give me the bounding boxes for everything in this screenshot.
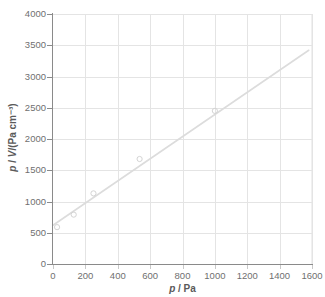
y-axis-tick-label: 500 <box>10 228 46 238</box>
data-layer <box>53 14 312 264</box>
y-axis-title-symbol-v: V <box>7 151 18 158</box>
y-axis-title: p / V/(Pa cm⁻³) <box>7 68 18 208</box>
y-axis-title-sep: / <box>7 157 18 165</box>
y-axis-tick <box>47 202 52 203</box>
x-axis-tick <box>150 265 151 269</box>
y-axis-tick <box>47 139 52 140</box>
trendline <box>53 50 309 225</box>
data-point <box>71 212 76 217</box>
y-axis-tick <box>47 45 52 46</box>
x-axis-tick <box>53 265 54 269</box>
data-point <box>54 225 59 230</box>
y-axis-tick <box>47 108 52 109</box>
data-point <box>91 191 96 196</box>
x-axis-tick-label: 1600 <box>292 270 325 281</box>
y-axis-title-units: /(Pa cm⁻³) <box>7 103 18 150</box>
x-axis-title-rest: / Pa <box>175 283 196 294</box>
x-axis-tick <box>312 265 313 269</box>
data-point <box>137 156 142 161</box>
x-axis-tick <box>215 265 216 269</box>
y-axis-tick <box>47 264 52 265</box>
gridline-vertical <box>312 14 313 264</box>
chart-title <box>0 0 325 8</box>
y-axis-tick <box>47 77 52 78</box>
chart-container: 05001000150020002500300035004000 0200400… <box>0 0 325 297</box>
y-axis-tick-label: 0 <box>10 259 46 269</box>
x-axis-tick <box>183 265 184 269</box>
y-axis-tick-label: 4000 <box>10 9 46 19</box>
y-axis-tick <box>47 14 52 15</box>
x-axis-tick <box>247 265 248 269</box>
y-axis-line <box>52 13 53 265</box>
x-axis-title: p / Pa <box>53 283 312 294</box>
y-axis-title-symbol-p: p <box>7 166 18 172</box>
x-axis-tick <box>280 265 281 269</box>
data-point <box>212 108 217 113</box>
x-axis-tick <box>85 265 86 269</box>
y-axis-tick-label: 3500 <box>10 40 46 50</box>
y-axis-tick <box>47 170 52 171</box>
x-axis-tick <box>118 265 119 269</box>
y-axis-tick <box>47 233 52 234</box>
